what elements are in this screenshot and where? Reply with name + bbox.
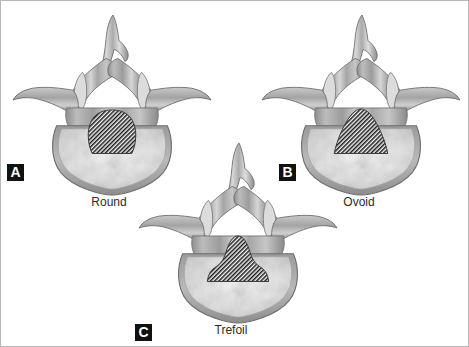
panel-label-a: A — [6, 163, 25, 182]
figure-container: A Round B Ovoid C Trefoil — [0, 0, 469, 347]
panel-trefoil — [131, 137, 345, 327]
spinal-canal-round — [88, 110, 136, 154]
vertebra-illustration-trefoil — [131, 137, 345, 327]
caption-trefoil: Trefoil — [171, 323, 291, 337]
vertebra-bone-structure — [139, 143, 337, 323]
panel-label-c: C — [134, 323, 153, 342]
